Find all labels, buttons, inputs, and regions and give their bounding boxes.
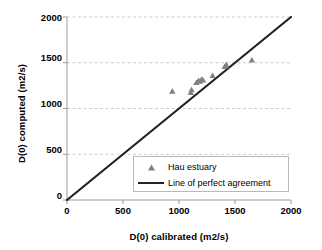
data-point-8 (209, 73, 215, 79)
triangle-marker-icon (134, 163, 168, 172)
data-point-11 (249, 57, 255, 63)
data-point-0 (169, 88, 175, 94)
line-swatch-icon (134, 182, 168, 184)
legend-item-hau-estuary: Hau estuary (134, 159, 288, 175)
chart-figure: D(0) computed (m2/s) D(0) calibrated (m2… (0, 0, 322, 250)
legend-label-hau-estuary: Hau estuary (168, 162, 217, 172)
legend-item-perfect-agreement: Line of perfect agreement (134, 175, 288, 191)
chart-legend: Hau estuary Line of perfect agreement (133, 156, 289, 192)
gridlines (67, 17, 291, 154)
plot-area (0, 0, 322, 250)
data-point-2 (188, 87, 194, 93)
legend-label-perfect-agreement: Line of perfect agreement (168, 178, 271, 188)
